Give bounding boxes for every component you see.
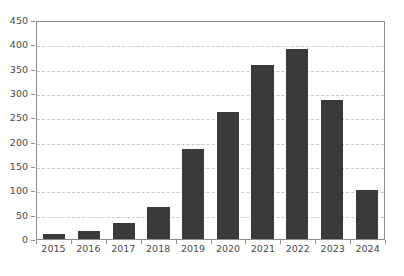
x-axis-tick-label: 2019 bbox=[176, 244, 211, 254]
bar-2020[interactable] bbox=[217, 112, 239, 239]
bar-2024[interactable] bbox=[356, 190, 378, 239]
y-axis-tick-label: 200 bbox=[10, 138, 28, 148]
y-axis-tickmark bbox=[31, 216, 35, 217]
y-axis-tick-label: 350 bbox=[10, 65, 28, 75]
y-axis-tickmark bbox=[31, 240, 35, 241]
y-axis-tick-label: 100 bbox=[10, 187, 28, 197]
y-axis-tickmark bbox=[31, 191, 35, 192]
x-axis-tick-label: 2017 bbox=[106, 244, 141, 254]
y-axis: 050100150200250300350400450 bbox=[0, 0, 33, 276]
bar-chart-figure: 050100150200250300350400450 201520162017… bbox=[0, 0, 404, 276]
bar-slot bbox=[280, 22, 315, 239]
x-axis-tick-label: 2021 bbox=[245, 244, 280, 254]
bar-2017[interactable] bbox=[113, 223, 135, 239]
bar-slot bbox=[245, 22, 280, 239]
x-axis-tick-label: 2016 bbox=[71, 244, 106, 254]
bar-slot bbox=[37, 22, 72, 239]
y-axis-tickmark bbox=[31, 118, 35, 119]
x-axis-tick-label: 2018 bbox=[141, 244, 176, 254]
x-axis-tick-label: 2022 bbox=[280, 244, 315, 254]
x-axis-tick-label: 2020 bbox=[211, 244, 246, 254]
x-axis-tick-label: 2024 bbox=[350, 244, 385, 254]
y-axis-tick-label: 400 bbox=[10, 41, 28, 51]
y-axis-tickmark bbox=[31, 167, 35, 168]
bar-slot bbox=[211, 22, 246, 239]
y-axis-tick-label: 300 bbox=[10, 89, 28, 99]
bar-slot bbox=[106, 22, 141, 239]
y-axis-tickmark bbox=[31, 94, 35, 95]
plot-area bbox=[36, 21, 385, 240]
bars-container bbox=[37, 22, 384, 239]
y-axis-tickmark bbox=[31, 45, 35, 46]
y-axis-tick-label: 150 bbox=[10, 162, 28, 172]
bar-2018[interactable] bbox=[147, 207, 169, 239]
bar-2021[interactable] bbox=[251, 65, 273, 239]
y-axis-tick-label: 0 bbox=[22, 235, 28, 245]
x-axis-tick-label: 2015 bbox=[36, 244, 71, 254]
y-axis-tick-label: 250 bbox=[10, 114, 28, 124]
y-axis-tick-label: 450 bbox=[10, 16, 28, 26]
x-axis-tick-label: 2023 bbox=[315, 244, 350, 254]
bar-2022[interactable] bbox=[286, 49, 308, 239]
bar-slot bbox=[176, 22, 211, 239]
y-axis-tickmark bbox=[31, 143, 35, 144]
bar-slot bbox=[72, 22, 107, 239]
bar-slot bbox=[349, 22, 384, 239]
bar-2015[interactable] bbox=[43, 234, 65, 239]
y-axis-tick-label: 50 bbox=[16, 211, 28, 221]
x-axis-tickmark bbox=[385, 240, 386, 244]
bar-2016[interactable] bbox=[78, 231, 100, 239]
bar-2019[interactable] bbox=[182, 149, 204, 239]
y-axis-tickmark bbox=[31, 21, 35, 22]
x-axis: 2015201620172018201920202021202220232024 bbox=[36, 244, 385, 254]
bar-slot bbox=[315, 22, 350, 239]
bar-slot bbox=[141, 22, 176, 239]
bar-2023[interactable] bbox=[321, 100, 343, 239]
y-axis-tickmark bbox=[31, 70, 35, 71]
